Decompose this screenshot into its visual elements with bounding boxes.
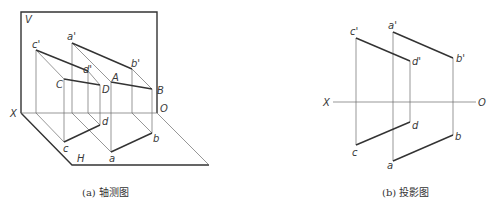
label-A: A [111, 72, 119, 83]
segment-CD [64, 79, 100, 85]
h-connector-b [132, 113, 152, 133]
label-d-prime: d' [412, 56, 421, 67]
h-plane-right-edge [157, 113, 209, 165]
label-b-prime: b' [456, 53, 465, 64]
diagram-canvas: V H X O c' a' d' b' C D A B c d a b X O … [0, 0, 492, 205]
label-O: O [160, 103, 168, 114]
label-b: b [153, 133, 159, 144]
label-c: c [352, 147, 358, 158]
label-B: B [157, 85, 164, 96]
label-a: a [387, 160, 393, 171]
label-b: b [455, 131, 461, 142]
label-C: C [56, 79, 63, 90]
segment-a-prime-b-prime [72, 43, 132, 69]
segment-a-prime-b-prime [393, 32, 453, 58]
segment-c-prime-d-prime [36, 50, 88, 71]
label-c: c [63, 143, 69, 154]
label-b-prime: b' [131, 58, 140, 69]
h-connector-d [88, 113, 100, 125]
label-d: d [412, 120, 419, 131]
segment-ab [111, 133, 152, 152]
label-H: H [77, 153, 85, 164]
segment-ab [393, 135, 453, 161]
label-X: X [322, 97, 331, 108]
caption-axonometric: (a) 轴测图 [82, 184, 129, 199]
connector-c-prime-C [36, 50, 64, 79]
label-d-prime: d' [83, 64, 92, 75]
label-d: d [102, 116, 109, 127]
caption-projection: (b) 投影图 [382, 184, 429, 199]
label-O: O [478, 97, 486, 108]
label-a-prime: a' [388, 20, 397, 31]
label-D: D [102, 84, 110, 95]
projection-view: X O c' a' d' b' c d a b [322, 20, 486, 171]
label-c-prime: c' [32, 39, 40, 50]
h-connector-c [36, 113, 64, 142]
label-c-prime: c' [350, 26, 358, 37]
segment-cd [64, 125, 100, 142]
label-a: a [109, 153, 115, 164]
segment-cd [356, 122, 410, 145]
segment-c-prime-d-prime [356, 38, 410, 61]
label-X: X [9, 108, 18, 119]
axonometric-view: V H X O c' a' d' b' C D A B c d a b [9, 12, 209, 165]
label-V: V [25, 14, 33, 25]
connector-a-prime-A [72, 43, 111, 82]
label-a-prime: a' [67, 31, 76, 42]
